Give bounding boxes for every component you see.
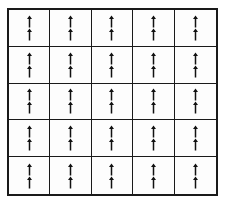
up-arrow-icon [150,101,157,114]
up-arrow-icon [108,101,115,114]
up-arrow-icon [192,176,199,189]
glyph-stack [26,163,33,189]
glyph-stack [192,52,199,78]
up-arrow-icon [26,65,33,78]
glyph-stack [26,52,33,78]
glyph-stack [67,88,74,114]
glyph-stack [192,88,199,114]
glyph-stack [67,15,74,41]
up-arrow-icon [67,88,74,101]
glyph-stack [26,15,33,41]
up-arrow-icon [150,15,157,28]
up-arrow-icon [67,101,74,114]
up-arrow-icon [108,176,115,189]
grid-cell [9,84,50,121]
grid-cell [175,157,216,194]
glyph-stack [67,163,74,189]
grid-cell [133,157,174,194]
up-arrow-icon [26,88,33,101]
grid-cell [92,120,133,157]
up-arrow-icon [192,163,199,176]
grid-cell [92,84,133,121]
grid-cell [50,10,91,47]
glyph-stack [192,163,199,189]
glyph-stack [150,125,157,151]
grid-cell [133,84,174,121]
up-arrow-icon [26,138,33,151]
up-arrow-icon [192,52,199,65]
up-arrow-icon [192,15,199,28]
up-arrow-icon [67,125,74,138]
grid-cell [50,84,91,121]
glyph-stack [192,15,199,41]
up-arrow-icon [26,125,33,138]
glyph-stack [67,125,74,151]
grid-cell [50,47,91,84]
glyph-stack [150,163,157,189]
glyph-stack [26,88,33,114]
up-arrow-icon [108,28,115,41]
grid-cell [175,84,216,121]
symbol-grid [7,8,218,196]
glyph-stack [108,163,115,189]
up-arrow-icon [67,65,74,78]
up-arrow-icon [108,65,115,78]
grid-cell [175,120,216,157]
grid-cell [133,10,174,47]
glyph-stack [150,88,157,114]
grid-cell [133,120,174,157]
grid-cell [133,47,174,84]
grid-cell [9,120,50,157]
glyph-stack [150,15,157,41]
up-arrow-icon [26,15,33,28]
glyph-stack [67,52,74,78]
up-arrow-icon [150,88,157,101]
up-arrow-icon [150,52,157,65]
figure-canvas [0,0,225,205]
up-arrow-icon [150,28,157,41]
up-arrow-icon [67,52,74,65]
grid-cell [9,157,50,194]
up-arrow-icon [67,138,74,151]
up-arrow-icon [150,125,157,138]
up-arrow-icon [192,138,199,151]
glyph-stack [108,125,115,151]
glyph-stack [26,125,33,151]
grid-cell [92,10,133,47]
up-arrow-icon [192,88,199,101]
up-arrow-icon [108,138,115,151]
up-arrow-icon [26,101,33,114]
up-arrow-icon [192,101,199,114]
up-arrow-icon [192,125,199,138]
grid-cell [175,47,216,84]
up-arrow-icon [150,163,157,176]
up-arrow-icon [150,65,157,78]
up-arrow-icon [108,52,115,65]
up-arrow-icon [108,125,115,138]
up-arrow-icon [192,65,199,78]
up-arrow-icon [150,176,157,189]
up-arrow-icon [108,88,115,101]
up-arrow-icon [67,176,74,189]
up-arrow-icon [108,15,115,28]
glyph-stack [192,125,199,151]
grid-cell [9,10,50,47]
up-arrow-icon [26,176,33,189]
glyph-stack [150,52,157,78]
glyph-stack [108,52,115,78]
grid-cell [92,157,133,194]
grid-cell [50,120,91,157]
grid-cell [50,157,91,194]
glyph-stack [108,88,115,114]
up-arrow-icon [67,163,74,176]
glyph-stack [108,15,115,41]
up-arrow-icon [67,28,74,41]
up-arrow-icon [67,15,74,28]
up-arrow-icon [26,52,33,65]
up-arrow-icon [26,28,33,41]
grid-cell [175,10,216,47]
up-arrow-icon [26,163,33,176]
up-arrow-icon [150,138,157,151]
grid-cell [9,47,50,84]
up-arrow-icon [108,163,115,176]
